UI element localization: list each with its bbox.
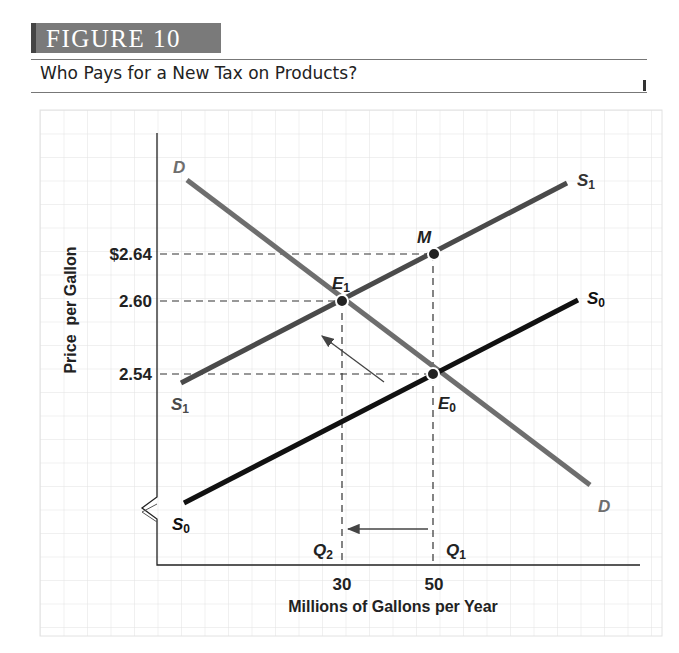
x-axis-label: Millions of Gallons per Year — [288, 598, 498, 615]
label-d-bottom: D — [598, 497, 610, 516]
point-e0 — [427, 368, 439, 380]
point-m — [428, 248, 440, 260]
label-d-top: D — [173, 158, 185, 177]
x-tick-30: 30 — [333, 575, 352, 594]
y-tick-264: $2.64 — [109, 245, 152, 264]
y-tick-260: 2.60 — [119, 292, 152, 311]
label-m: M — [417, 228, 432, 247]
point-e1 — [336, 295, 348, 307]
y-tick-254: 2.54 — [119, 365, 153, 384]
y-axis-label: Price per Gallon — [62, 246, 79, 373]
supply-demand-chart: D D S1 S1 S0 S0 E1 M E0 Q2 Q1 $2.64 2.60… — [0, 0, 679, 653]
x-tick-50: 50 — [425, 575, 444, 594]
